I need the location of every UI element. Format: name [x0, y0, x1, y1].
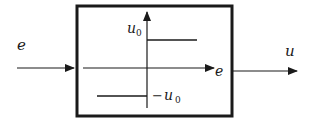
lower-level-label: −u0	[152, 87, 181, 105]
x-axis-label: e	[215, 63, 223, 79]
output-signal: u	[233, 42, 297, 71]
upper-level-label: u0	[127, 20, 142, 38]
input-label: e	[17, 36, 26, 54]
input-signal: e	[17, 36, 74, 68]
relay-block-diagram: e e u0 −u0 u	[0, 0, 312, 125]
output-label: u	[285, 42, 295, 60]
